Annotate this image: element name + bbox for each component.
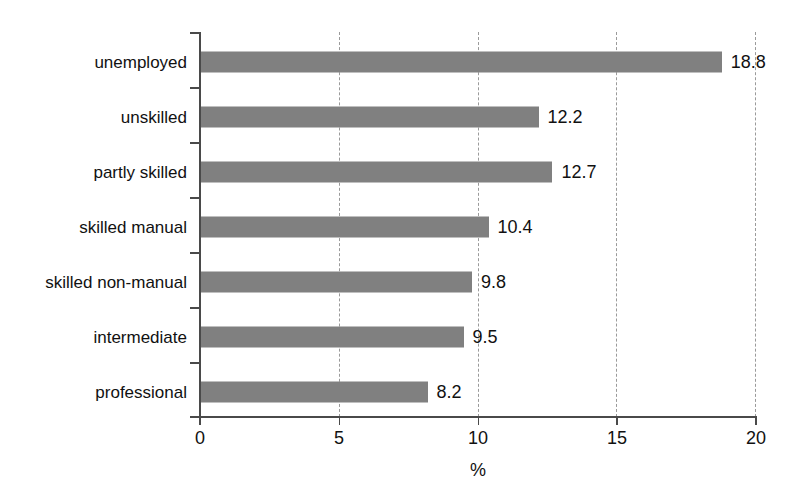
bar-value-unskilled: 12.2	[548, 108, 583, 126]
bar-skilled-manual	[200, 216, 489, 237]
bar-chart: unemployed unskilled partly skilled skil…	[0, 0, 803, 502]
bar-value-skilled-manual: 10.4	[498, 218, 533, 236]
x-tick-mark-20	[755, 416, 757, 425]
bar-professional	[200, 381, 428, 402]
bar-value-unemployed: 18.8	[731, 53, 766, 71]
category-label-unemployed: unemployed	[94, 53, 187, 70]
x-tick-mark-10	[478, 416, 480, 425]
bar-partly-skilled	[200, 161, 552, 182]
x-axis-title: %	[470, 461, 486, 479]
category-label-professional: professional	[95, 383, 187, 400]
gridline-15	[616, 32, 617, 417]
bar-value-skilled-non-manual: 9.8	[481, 273, 506, 291]
bar-unemployed	[200, 51, 722, 72]
gridline-20	[755, 32, 756, 417]
bar-intermediate	[200, 326, 464, 347]
category-axis-labels: unemployed unskilled partly skilled skil…	[0, 0, 189, 502]
x-tick-mark-15	[616, 416, 618, 425]
x-tick-label-15: 15	[607, 429, 627, 447]
category-label-intermediate: intermediate	[93, 328, 187, 345]
bar-value-intermediate: 9.5	[473, 328, 498, 346]
x-tick-label-20: 20	[746, 429, 766, 447]
bar-value-professional: 8.2	[437, 383, 462, 401]
bar-value-partly-skilled: 12.7	[561, 163, 596, 181]
category-label-unskilled: unskilled	[121, 108, 187, 125]
x-tick-label-0: 0	[195, 429, 205, 447]
x-tick-label-5: 5	[334, 429, 344, 447]
category-label-partly-skilled: partly skilled	[93, 163, 187, 180]
bar-unskilled	[200, 106, 539, 127]
x-tick-mark-5	[339, 416, 341, 425]
bar-skilled-non-manual	[200, 271, 472, 292]
x-tick-label-10: 10	[468, 429, 488, 447]
category-label-skilled-manual: skilled manual	[79, 218, 187, 235]
category-label-skilled-non-manual: skilled non-manual	[45, 273, 187, 290]
x-tick-mark-0	[199, 416, 201, 425]
y-axis-line	[199, 32, 201, 418]
